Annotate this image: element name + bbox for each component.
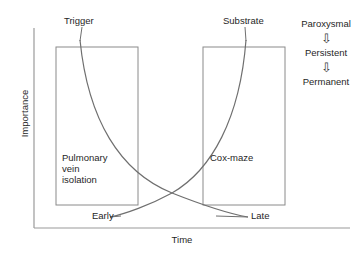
trigger-leader-line bbox=[80, 27, 82, 41]
down-arrow-icon: ⇩ bbox=[288, 60, 364, 75]
trigger-curve bbox=[80, 40, 248, 217]
right-box-label: Cox-maze bbox=[210, 152, 253, 163]
substrate-curve bbox=[110, 40, 246, 217]
substrate-leader-line bbox=[245, 27, 246, 41]
trigger-label: Trigger bbox=[64, 15, 94, 26]
y-axis-label: Importance bbox=[19, 74, 30, 154]
substrate-label: Substrate bbox=[223, 15, 264, 26]
progression-stage-paroxysmal: Paroxysmal bbox=[288, 18, 364, 30]
late-label: Late bbox=[251, 210, 270, 221]
down-arrow-icon: ⇩ bbox=[288, 31, 364, 46]
atrial-fibrillation-progression-diagram: Importance Time Trigger Substrate Early … bbox=[0, 0, 364, 256]
right-box-rect bbox=[203, 47, 285, 205]
progression-stage-permanent: Permanent bbox=[288, 76, 364, 88]
progression-stage-persistent: Persistent bbox=[288, 47, 364, 59]
x-axis-label: Time bbox=[0, 234, 364, 245]
left-box-label: Pulmonary vein isolation bbox=[62, 152, 107, 185]
early-label: Early bbox=[92, 210, 114, 221]
progression-sequence: Paroxysmal ⇩ Persistent ⇩ Permanent bbox=[288, 18, 364, 88]
